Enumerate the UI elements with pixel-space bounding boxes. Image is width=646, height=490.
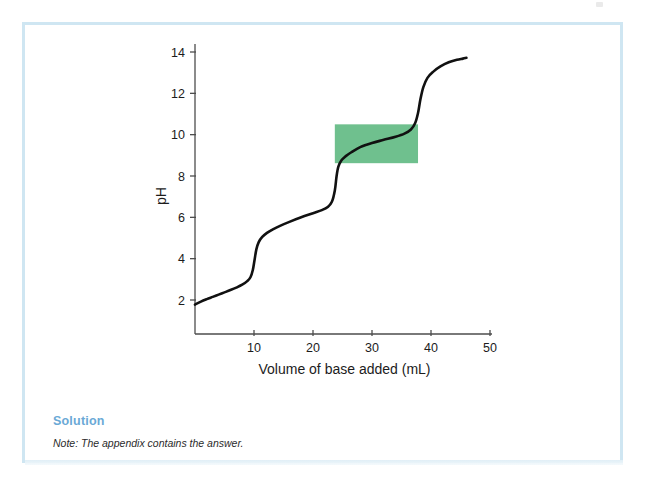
solution-heading: Solution <box>53 414 533 428</box>
exercise-box-shadow <box>25 460 623 465</box>
y-axis-tick-label: 8 <box>178 170 185 184</box>
x-axis-tick-label: 10 <box>247 341 261 355</box>
x-axis-title: Volume of base added (mL) <box>259 361 431 377</box>
x-axis-tick-label: 30 <box>365 341 379 355</box>
y-axis-tick-label: 12 <box>171 87 185 101</box>
solution-note: Note: The appendix contains the answer. <box>53 437 533 450</box>
scan-artifact <box>596 2 603 7</box>
y-axis-tick-label: 2 <box>178 294 185 308</box>
y-axis-title: pH <box>153 187 169 205</box>
x-axis-tick-label: 50 <box>483 341 497 355</box>
y-axis-tick-label: 4 <box>178 252 185 266</box>
y-axis-tick-label: 10 <box>171 128 185 142</box>
titration-curve <box>195 58 466 305</box>
y-axis-tick-label: 14 <box>171 46 185 60</box>
x-axis-tick-label: 40 <box>424 341 438 355</box>
x-axis-tick-label: 20 <box>306 341 320 355</box>
titration-chart: 24681012141020304050Volume of base added… <box>22 22 623 392</box>
y-axis-tick-label: 6 <box>178 211 185 225</box>
page-root: 24681012141020304050Volume of base added… <box>0 0 646 490</box>
chart-canvas: 24681012141020304050Volume of base added… <box>22 22 623 392</box>
buffer-region-highlight <box>335 124 418 163</box>
solution-block: Solution Note: The appendix contains the… <box>53 414 533 450</box>
